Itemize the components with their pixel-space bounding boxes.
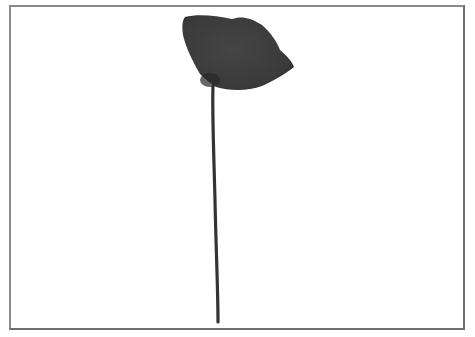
flower-petals — [182, 15, 294, 90]
stem — [213, 86, 218, 322]
flower-base-shadow — [200, 73, 220, 87]
poppy-photo — [0, 0, 475, 337]
